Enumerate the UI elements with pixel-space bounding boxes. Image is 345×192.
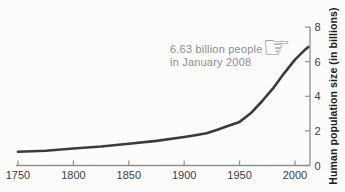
x-tick-label: 1750 — [6, 169, 30, 181]
x-tick-label: 1950 — [227, 169, 251, 181]
annotation-line1: 6.63 billion people — [170, 43, 262, 56]
chart-canvas: 17501800185019001950200002468 — [0, 0, 345, 192]
y-tick-label: 4 — [315, 90, 321, 102]
x-tick-label: 1850 — [117, 169, 141, 181]
y-axis-title: Human population size (in billions) — [327, 7, 339, 184]
pointing-hand-icon: ☞ — [262, 31, 291, 63]
x-tick-label: 1900 — [172, 169, 196, 181]
annotation-line2: in January 2008 — [170, 56, 262, 69]
annotation: 6.63 billion people in January 2008 — [170, 43, 262, 68]
population-growth-chart: 17501800185019001950200002468 6.63 billi… — [0, 0, 345, 192]
y-tick-label: 2 — [315, 125, 321, 137]
y-tick-label: 6 — [315, 56, 321, 68]
y-tick-label: 8 — [315, 21, 321, 33]
x-tick-label: 1800 — [61, 169, 85, 181]
y-tick-label: 0 — [315, 160, 321, 172]
x-tick-label: 2000 — [283, 169, 307, 181]
